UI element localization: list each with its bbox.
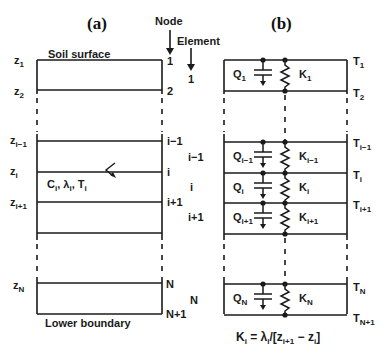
node-label: N — [166, 279, 174, 290]
capacitance-label: Qi−1 — [233, 151, 253, 162]
element-label: N — [190, 295, 198, 306]
node-label: N+1 — [166, 309, 187, 320]
conductance-label: Ki — [299, 182, 309, 193]
node-label: i−1 — [167, 136, 183, 147]
temperature-label: TN — [353, 282, 366, 293]
element-label: i−1 — [188, 152, 204, 163]
element-header: Element — [177, 36, 220, 47]
conductance-label: Ki+1 — [299, 212, 318, 223]
element-label: i — [190, 182, 193, 193]
depth-label: zN — [13, 280, 24, 291]
layer-properties-label: Ci, λi, Ti — [47, 179, 87, 190]
conductance-label: KN — [299, 293, 313, 304]
temperature-label: Ti+1 — [353, 200, 371, 211]
capacitance-label: Q1 — [233, 69, 246, 80]
depth-label: zi−1 — [10, 135, 27, 146]
element-label: i+1 — [188, 212, 204, 223]
depth-label: zi — [10, 166, 18, 177]
conductance-formula: Ki = λi/[zi+1 − zi] — [236, 331, 320, 343]
temperature-label: Ti — [353, 170, 362, 181]
lower-boundary-label: Lower boundary — [45, 318, 131, 329]
depth-label: zi+1 — [10, 197, 27, 208]
node-header: Node — [155, 16, 183, 27]
element-label: 1 — [188, 74, 194, 85]
conductance-label: Ki−1 — [299, 151, 318, 162]
depth-label: z1 — [14, 55, 24, 66]
capacitance-label: Qi+1 — [233, 212, 253, 223]
node-label: 1 — [167, 56, 173, 67]
conductance-label: K1 — [299, 69, 311, 80]
depth-label: z2 — [14, 86, 24, 97]
node-label: i — [167, 167, 170, 178]
panel-a-title: (a) — [87, 14, 107, 34]
temperature-label: T1 — [353, 56, 364, 67]
capacitance-label: Qi — [233, 182, 244, 193]
soil-surface-label: Soil surface — [48, 49, 110, 60]
temperature-label: Ti−1 — [353, 138, 371, 149]
node-label: i+1 — [167, 197, 183, 208]
panel-b-title: (b) — [271, 14, 292, 34]
capacitance-label: QN — [233, 293, 247, 304]
node-label: 2 — [167, 86, 173, 97]
temperature-label: T2 — [353, 88, 364, 99]
temperature-label: TN+1 — [353, 313, 375, 324]
